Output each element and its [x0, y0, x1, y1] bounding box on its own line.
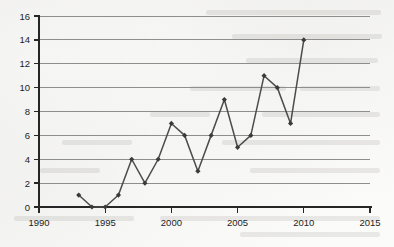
x-tick-label: 1990: [28, 217, 49, 228]
y-tick-label: 4: [25, 154, 30, 165]
y-axis-tick-labels: 16 14 12 10 8 6 4 2 0: [19, 11, 30, 213]
x-tick-label: 2005: [227, 217, 248, 228]
y-tick-label: 8: [25, 106, 30, 117]
data-point-marker: [195, 169, 200, 174]
series-markers: [76, 37, 306, 209]
y-tick-label: 0: [25, 202, 30, 213]
line-chart-figure: 16 14 12 10 8 6 4 2 0 1990 1995 2000 200…: [0, 0, 394, 247]
y-gridlines: [39, 16, 370, 183]
y-tick-label: 16: [19, 11, 30, 22]
chart-plot-area: 16 14 12 10 8 6 4 2 0 1990 1995 2000 200…: [0, 0, 394, 247]
x-tick-marks: [39, 207, 370, 213]
y-tick-label: 14: [19, 34, 30, 45]
data-point-marker: [301, 37, 306, 42]
data-point-marker: [222, 97, 227, 102]
x-tick-label: 2015: [359, 217, 380, 228]
y-tick-label: 2: [25, 178, 30, 189]
x-axis-tick-labels: 1990 1995 2000 2005 2010 2015: [28, 217, 380, 228]
data-point-marker: [209, 133, 214, 138]
y-tick-label: 10: [19, 82, 30, 93]
x-tick-label: 2010: [293, 217, 314, 228]
data-point-marker: [288, 121, 293, 126]
x-tick-label: 2000: [161, 217, 182, 228]
x-tick-label: 1995: [95, 217, 116, 228]
series-line: [79, 40, 304, 207]
y-tick-label: 12: [19, 58, 30, 69]
y-tick-label: 6: [25, 130, 30, 141]
